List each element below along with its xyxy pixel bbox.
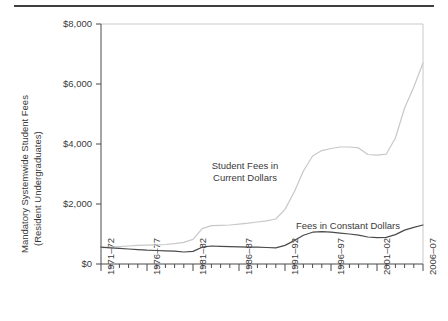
series-label-constant-dollars: Fees in Constant Dollars [296,220,408,232]
chart-figure: Mandatory Systemwide Student Fees (Resid… [0,0,448,321]
series-label-current-dollars-line1: Student Fees in [193,160,297,172]
series-label-current-dollars: Student Fees in Current Dollars [193,160,297,183]
series-label-current-dollars-line2: Current Dollars [193,172,297,184]
